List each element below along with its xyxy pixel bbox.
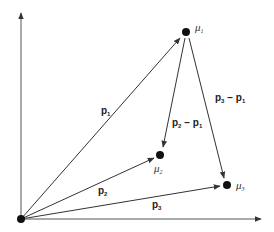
label-p2-minus-p1: p2 − p1 [172,117,203,129]
vector-p3-minus-p1 [189,38,224,178]
label-mu3: μ3 [235,179,245,192]
point-mu1 [182,28,190,36]
vector-p3 [21,186,220,219]
label-p1: p1 [101,105,111,117]
label-mu2: μ2 [153,162,163,175]
vector-diagram: μ1 μ2 μ3 p1 p2 p3 p2 − p1 p3 − p1 [0,0,274,232]
point-mu2 [156,151,164,159]
point-mu3 [223,181,231,189]
origin-point [17,215,25,223]
label-mu1: μ1 [194,21,204,34]
label-p2: p2 [98,185,108,197]
label-p3-minus-p1: p3 − p1 [215,92,246,104]
label-p3: p3 [152,199,162,211]
vector-p2 [21,158,154,219]
